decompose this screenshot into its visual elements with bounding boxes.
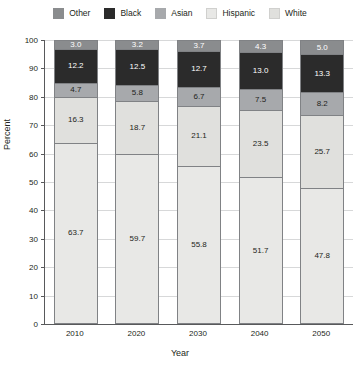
bar-segment-other[interactable]: 3.2 [115, 40, 159, 49]
bar-segment-value-label: 3.7 [193, 42, 204, 50]
legend-label: Hispanic [222, 8, 255, 19]
bar-segment-other[interactable]: 3.0 [54, 40, 98, 49]
bar-segment-value-label: 13.0 [253, 67, 269, 75]
bar-segment-white[interactable]: 63.7 [54, 143, 98, 324]
bar-segment-other[interactable]: 5.0 [300, 40, 344, 54]
x-axis-tick-label-2010: 2010 [44, 329, 106, 338]
bar-2020[interactable]: 3.212.55.818.759.7 [115, 40, 159, 324]
bar-segment-value-label: 18.7 [130, 124, 146, 132]
bar-segment-black[interactable]: 13.0 [239, 52, 283, 89]
bar-segment-asian[interactable]: 6.7 [177, 87, 221, 106]
bar-segment-value-label: 55.8 [191, 241, 207, 249]
x-axis-title: Year [0, 348, 360, 358]
bar-segment-white[interactable]: 51.7 [239, 177, 283, 324]
bar-segment-asian[interactable]: 7.5 [239, 89, 283, 110]
y-axis-tick-label: 50 [29, 178, 38, 187]
legend-item-black[interactable]: Black [104, 8, 141, 19]
bar-segment-hispanic[interactable]: 25.7 [300, 115, 344, 188]
bar-segment-other[interactable]: 3.7 [177, 40, 221, 51]
x-axis-tick-label-2040: 2040 [229, 329, 291, 338]
legend-item-white[interactable]: White [269, 8, 307, 19]
y-axis-tick-label: 20 [29, 263, 38, 272]
bar-segment-value-label: 4.7 [70, 86, 81, 94]
bar-segment-value-label: 47.8 [314, 252, 330, 260]
legend-swatch-icon [269, 8, 280, 19]
bar-segment-asian[interactable]: 5.8 [115, 85, 159, 101]
y-axis-tick-label: 40 [29, 206, 38, 215]
y-axis-tick-label: 100 [25, 36, 38, 45]
bar-segment-value-label: 12.5 [130, 63, 146, 71]
bar-segment-value-label: 6.7 [193, 93, 204, 101]
y-axis-tick-label: 90 [29, 64, 38, 73]
bar-segment-value-label: 12.2 [68, 62, 84, 70]
bar-segment-black[interactable]: 12.5 [115, 49, 159, 85]
x-axis-tick-label-2050: 2050 [290, 329, 352, 338]
bar-2040[interactable]: 4.313.07.523.551.7 [239, 40, 283, 324]
legend-swatch-icon [155, 8, 166, 19]
bar-2010[interactable]: 3.012.24.716.363.7 [54, 40, 98, 324]
bars-layer: 3.012.24.716.363.73.212.55.818.759.73.71… [45, 40, 353, 324]
bar-segment-black[interactable]: 13.3 [300, 54, 344, 92]
y-axis-tick-label: 60 [29, 149, 38, 158]
bar-2030[interactable]: 3.712.76.721.155.8 [177, 40, 221, 324]
bar-segment-asian[interactable]: 8.2 [300, 92, 344, 115]
legend-item-hispanic[interactable]: Hispanic [206, 8, 255, 19]
bar-segment-value-label: 13.3 [314, 70, 330, 78]
bar-segment-value-label: 5.8 [132, 89, 143, 97]
bar-segment-value-label: 59.7 [130, 235, 146, 243]
y-axis-tick-label: 70 [29, 121, 38, 130]
legend-swatch-icon [104, 8, 115, 19]
legend-swatch-icon [53, 8, 64, 19]
y-axis-title: Percent [2, 119, 12, 150]
y-axis-tick-label: 10 [29, 291, 38, 300]
bar-segment-value-label: 8.2 [317, 100, 328, 108]
bar-segment-value-label: 12.7 [191, 65, 207, 73]
y-axis-tick-label: 30 [29, 234, 38, 243]
bar-segment-value-label: 5.0 [317, 44, 328, 52]
legend-label: Other [69, 8, 90, 19]
legend-label: Asian [171, 8, 192, 19]
bar-segment-white[interactable]: 47.8 [300, 188, 344, 324]
bar-segment-value-label: 51.7 [253, 247, 269, 255]
bar-segment-white[interactable]: 55.8 [177, 166, 221, 324]
bar-segment-hispanic[interactable]: 21.1 [177, 106, 221, 166]
bar-segment-value-label: 23.5 [253, 140, 269, 148]
bar-segment-value-label: 63.7 [68, 229, 84, 237]
y-axis-tick-label: 0 [34, 320, 38, 329]
y-axis-tick-label: 80 [29, 92, 38, 101]
legend-swatch-icon [206, 8, 217, 19]
y-axis-tick [41, 324, 45, 325]
chart-legend: OtherBlackAsianHispanicWhite [0, 8, 360, 19]
bar-segment-hispanic[interactable]: 23.5 [239, 110, 283, 177]
bar-segment-asian[interactable]: 4.7 [54, 83, 98, 96]
bar-segment-value-label: 16.3 [68, 116, 84, 124]
bar-segment-value-label: 25.7 [314, 148, 330, 156]
stacked-bar-chart: OtherBlackAsianHispanicWhite Percent 010… [0, 0, 360, 370]
legend-item-asian[interactable]: Asian [155, 8, 192, 19]
bar-segment-value-label: 4.3 [255, 43, 266, 51]
bar-segment-hispanic[interactable]: 16.3 [54, 97, 98, 143]
bar-segment-black[interactable]: 12.2 [54, 49, 98, 84]
legend-label: Black [120, 8, 141, 19]
legend-item-other[interactable]: Other [53, 8, 90, 19]
bar-segment-value-label: 21.1 [191, 132, 207, 140]
bar-segment-hispanic[interactable]: 18.7 [115, 101, 159, 154]
bar-segment-value-label: 3.2 [132, 41, 143, 49]
x-axis-tick-label-2030: 2030 [167, 329, 229, 338]
plot-area: 0102030405060708090100 3.012.24.716.363.… [44, 40, 353, 325]
bar-segment-value-label: 3.0 [70, 41, 81, 49]
bar-segment-value-label: 7.5 [255, 96, 266, 104]
bar-segment-white[interactable]: 59.7 [115, 154, 159, 324]
bar-segment-black[interactable]: 12.7 [177, 51, 221, 87]
bar-2050[interactable]: 5.013.38.225.747.8 [300, 40, 344, 324]
bar-segment-other[interactable]: 4.3 [239, 40, 283, 52]
x-axis-tick-label-2020: 2020 [106, 329, 168, 338]
legend-label: White [285, 8, 307, 19]
